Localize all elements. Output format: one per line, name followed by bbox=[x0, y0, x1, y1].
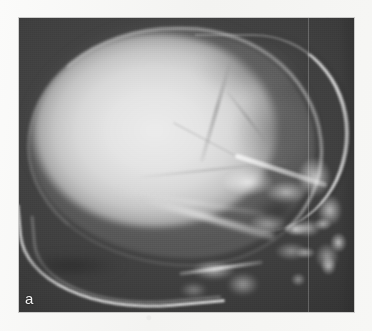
lateral-skull-radiograph: a bbox=[19, 18, 354, 312]
figure-page: a bbox=[0, 0, 372, 331]
mandibular-ramus bbox=[169, 254, 281, 312]
scan-fold-line bbox=[308, 18, 309, 312]
film-right-edge-strip bbox=[338, 18, 354, 312]
panel-label: a bbox=[25, 291, 34, 306]
posterior-air-shadow bbox=[19, 254, 169, 312]
